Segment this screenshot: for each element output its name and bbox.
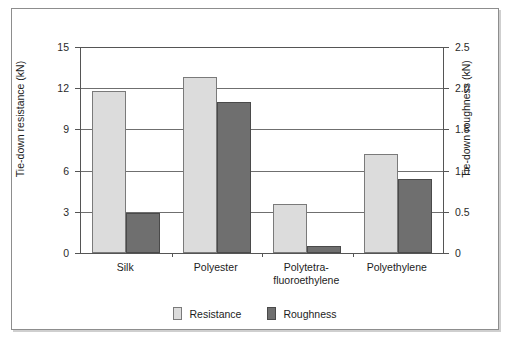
right-axis-tick-label: 0 [455, 247, 489, 259]
gridline [81, 129, 443, 130]
bar-resistance [183, 77, 217, 253]
left-axis-tick-label: 9 [35, 123, 69, 135]
legend-swatch-roughness-icon [267, 307, 276, 320]
right-axis-tick-label: 1.5 [455, 123, 489, 135]
left-axis-tick [75, 129, 81, 130]
right-axis-tick [443, 212, 449, 213]
bar-roughness [307, 246, 341, 253]
legend-swatch-resistance-icon [173, 307, 182, 320]
right-axis-tick-label: 2.5 [455, 41, 489, 53]
right-axis-tick-label: 0.5 [455, 206, 489, 218]
category-separator-tick [172, 253, 173, 257]
figure-frame: Tie-down resistance (kN) Tie-down roughn… [11, 8, 499, 330]
left-axis-tick [75, 253, 81, 254]
right-axis-tick [443, 47, 449, 48]
right-axis-tick-label: 1.0 [455, 165, 489, 177]
legend-label-resistance: Resistance [189, 308, 241, 320]
bar-roughness [126, 213, 160, 253]
bar-roughness [398, 179, 432, 253]
left-axis-title: Tie-down resistance (kN) [14, 39, 26, 199]
left-axis-tick [75, 212, 81, 213]
legend: Resistance Roughness [12, 307, 498, 320]
right-axis-tick [443, 88, 449, 89]
left-axis-tick-label: 6 [35, 165, 69, 177]
bar-roughness [217, 102, 251, 253]
gridline [81, 88, 443, 89]
legend-label-roughness: Roughness [283, 308, 336, 320]
left-axis-tick [75, 171, 81, 172]
bar-resistance [92, 91, 126, 253]
left-axis-tick-label: 3 [35, 206, 69, 218]
right-axis-tick [443, 253, 449, 254]
left-axis-tick [75, 88, 81, 89]
category-separator-tick [353, 253, 354, 257]
left-axis-tick-label: 15 [35, 41, 69, 53]
legend-entry-roughness: Roughness [267, 307, 336, 320]
right-axis-tick-label: 2.0 [455, 82, 489, 94]
gridline [81, 47, 443, 48]
left-axis-tick [75, 47, 81, 48]
category-label-polyethylene: Polyethylene [342, 261, 452, 274]
legend-entry-resistance: Resistance [173, 307, 241, 320]
left-axis-tick-label: 0 [35, 247, 69, 259]
bar-resistance [364, 154, 398, 253]
plot-area: 0030.561.091.5122.0152.5 [80, 47, 444, 254]
bar-resistance [273, 204, 307, 253]
category-separator-tick [262, 253, 263, 257]
right-axis-tick [443, 171, 449, 172]
right-axis-tick [443, 129, 449, 130]
left-axis-tick-label: 12 [35, 82, 69, 94]
